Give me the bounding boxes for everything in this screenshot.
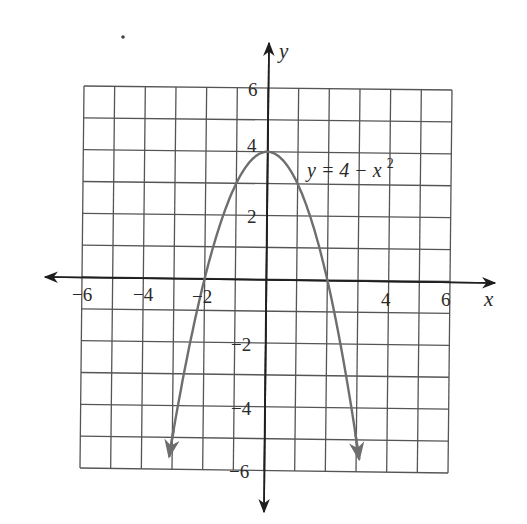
x-tick-label: 6 [441,289,451,310]
y-tick-label: 2 [247,206,257,227]
y-tick-label: −6 [229,461,249,482]
y-tick-label: −2 [231,334,251,355]
y-tick-label: −4 [231,398,252,419]
y-axis-bottom-arrow [264,43,269,512]
stray-dot [121,35,125,39]
equation-label: y = 4 − x 2 [305,156,394,182]
y-axis-label: y [277,39,289,63]
equation-exponent: 2 [387,156,394,171]
x-axis-label: x [483,287,494,311]
x-tick-label: 4 [381,289,391,310]
curve-left-arrow [169,428,174,457]
y-tick-label: 4 [247,135,257,156]
x-tick-label: −4 [133,284,154,305]
y-tick-label: 6 [248,79,258,100]
x-tick-label: −6 [72,284,92,305]
x-tick-label: −2 [192,286,212,307]
parabola-chart: y x −6 −4 −2 4 6 6 4 2 −2 −4 −6 y = 4 − … [0,0,527,524]
equation-main: y = 4 − x [305,159,382,182]
